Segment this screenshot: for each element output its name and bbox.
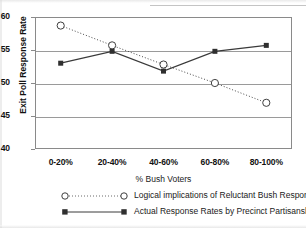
y-tick-label-50: 50 [0, 77, 10, 87]
data-point-open-circle-2 [160, 61, 167, 68]
x-axis-title: % Bush Voters [35, 174, 292, 184]
data-point-open-circle-4 [263, 99, 270, 106]
chart-legend: Logical implications of Reluctant Bush R… [0, 188, 306, 220]
scan-artifact-top-line [150, 5, 306, 6]
series-actual [58, 43, 269, 74]
data-series-layer [35, 17, 292, 149]
legend-item-actual: Actual Response Rates by Precinct Partis… [0, 204, 306, 220]
data-point-filled-square-2 [161, 69, 166, 74]
legend-label-actual: Actual Response Rates by Precinct Partis… [134, 206, 306, 216]
legend-label-theory: Logical implications of Reluctant Bush R… [134, 190, 306, 200]
y-axis-title: Exit Poll Response Rate [18, 0, 28, 135]
data-point-filled-square-1 [110, 49, 115, 54]
scan-artifact-top [0, 0, 306, 3]
x-tick-label-4: 80-100% [236, 157, 296, 167]
data-point-filled-square-0 [58, 61, 63, 66]
data-point-open-circle-3 [211, 79, 218, 86]
series-theory [57, 22, 270, 106]
legend-marker-filled-square-icon [60, 204, 130, 220]
legend-marker-open-circle-icon [60, 188, 130, 204]
data-point-filled-square-3 [212, 49, 217, 54]
data-point-open-circle-0 [57, 22, 64, 29]
chart-figure: Exit Poll Response Rate 4045505560 0-20%… [0, 0, 306, 228]
scan-artifact-bottom [0, 225, 306, 228]
data-point-open-circle-1 [109, 42, 116, 49]
y-tick-label-60: 60 [0, 11, 10, 21]
data-point-filled-square-4 [264, 43, 269, 48]
y-tick-label-40: 40 [0, 143, 10, 153]
legend-item-theory: Logical implications of Reluctant Bush R… [0, 188, 306, 204]
y-tick-label-55: 55 [0, 44, 10, 54]
y-tick-label-45: 45 [0, 110, 10, 120]
